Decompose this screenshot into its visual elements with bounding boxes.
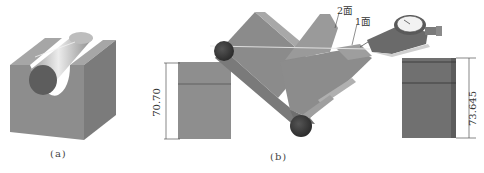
technical-figure bbox=[0, 0, 484, 173]
dial-gauge bbox=[360, 15, 442, 57]
tilted-v-block bbox=[210, 12, 372, 128]
face-2-label: 2面 bbox=[337, 3, 353, 17]
left-block bbox=[178, 62, 231, 139]
face-label-leaders bbox=[335, 13, 357, 45]
caption-a: (a) bbox=[50, 148, 67, 159]
face-1-label: 1面 bbox=[355, 14, 371, 28]
caption-b: (b) bbox=[270, 151, 287, 162]
top-roller bbox=[214, 41, 234, 61]
right-height-dimension: 73.645 bbox=[467, 91, 478, 126]
bottom-roller bbox=[290, 115, 312, 137]
left-height-dimension: 70.70 bbox=[151, 88, 162, 117]
left-dimension bbox=[164, 63, 180, 139]
right-block bbox=[402, 58, 456, 138]
v-block-with-cylinder bbox=[10, 32, 116, 140]
